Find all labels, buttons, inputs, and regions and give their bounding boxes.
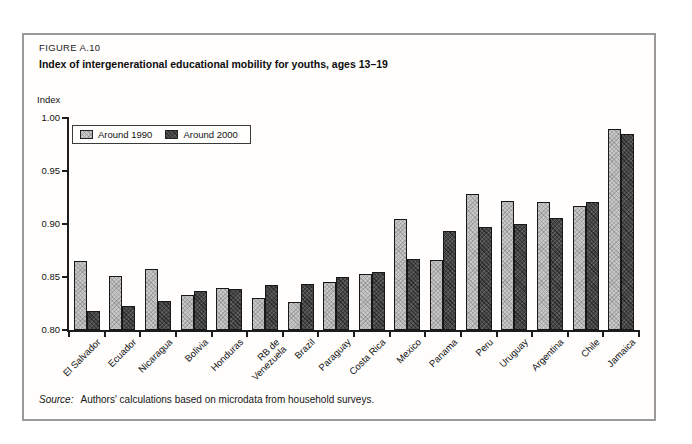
x-tick	[567, 332, 569, 337]
bar-brazil-around-1990	[288, 302, 301, 330]
x-label-mexico: Mexico	[395, 337, 423, 365]
bar-brazil-around-2000	[301, 284, 314, 330]
x-tick	[246, 332, 248, 337]
x-label-nicaragua: Nicaragua	[136, 337, 173, 374]
x-label-brazil: Brazil	[293, 337, 317, 361]
y-tick	[62, 223, 67, 225]
bar-argentina-around-1990	[537, 202, 550, 330]
bar-ecuador-around-2000	[122, 306, 135, 330]
y-tick-label: 0.90	[28, 218, 60, 229]
bar-bolivia-around-1990	[181, 295, 194, 330]
y-tick-label: 1.00	[28, 112, 60, 123]
y-tick	[62, 276, 67, 278]
source-note: Source:Authors' calculations based on mi…	[39, 394, 374, 405]
x-tick	[602, 332, 604, 337]
x-tick	[104, 332, 106, 337]
bar-chile-around-1990	[573, 206, 586, 330]
x-tick	[175, 332, 177, 337]
bar-bolivia-around-2000	[194, 291, 207, 330]
x-tick	[389, 332, 391, 337]
bar-rb-de-venezuela-around-1990	[252, 298, 265, 330]
bar-mexico-around-2000	[407, 259, 420, 330]
bar-nicaragua-around-1990	[145, 269, 158, 330]
y-tick-label: 0.85	[28, 271, 60, 282]
bar-paraguay-around-1990	[323, 282, 336, 330]
bar-costa-rica-around-2000	[372, 272, 385, 330]
bar-jamaica-around-2000	[621, 134, 634, 330]
bar-costa-rica-around-1990	[359, 274, 372, 330]
page: FIGURE A.10 Index of intergenerational e…	[0, 0, 692, 444]
x-label-panama: Panama	[427, 337, 459, 369]
source-text: Authors' calculations based on microdata…	[80, 394, 374, 405]
x-tick	[353, 332, 355, 337]
bar-paraguay-around-2000	[336, 277, 349, 330]
y-tick	[62, 117, 67, 119]
bar-uruguay-around-1990	[501, 201, 514, 330]
x-tick	[68, 332, 70, 337]
bar-jamaica-around-1990	[608, 129, 621, 330]
bar-uruguay-around-2000	[514, 224, 527, 330]
x-label-argentina: Argentina	[530, 337, 565, 372]
bar-el-salvador-around-2000	[87, 311, 100, 330]
bar-nicaragua-around-2000	[158, 301, 171, 330]
x-label-peru: Peru	[473, 337, 494, 358]
bar-peru-around-2000	[479, 227, 492, 330]
x-label-jamaica: Jamaica	[605, 337, 637, 369]
bar-rb-de-venezuela-around-2000	[265, 285, 278, 330]
x-tick	[460, 332, 462, 337]
bar-panama-around-2000	[443, 231, 456, 330]
y-axis-line	[67, 117, 69, 332]
x-label-rb-de-venezuela: RB de Venezuela	[243, 337, 288, 382]
x-label-chile: Chile	[579, 337, 601, 359]
bar-mexico-around-1990	[394, 219, 407, 330]
y-tick	[62, 329, 67, 331]
plot-area: 1.000.950.900.850.80El SalvadorEcuadorNi…	[0, 0, 692, 444]
x-tick	[282, 332, 284, 337]
bar-honduras-around-2000	[229, 289, 242, 330]
source-prefix-label: Source:	[39, 394, 73, 405]
x-tick	[211, 332, 213, 337]
bar-el-salvador-around-1990	[74, 261, 87, 330]
x-label-costa-rica: Costa Rica	[348, 337, 388, 377]
x-label-bolivia: Bolivia	[183, 337, 210, 364]
y-tick	[62, 170, 67, 172]
x-label-paraguay: Paraguay	[316, 337, 351, 372]
bar-chile-around-2000	[586, 202, 599, 330]
x-label-honduras: Honduras	[209, 337, 245, 373]
bar-panama-around-1990	[430, 260, 443, 330]
bar-argentina-around-2000	[550, 218, 563, 330]
y-tick-label: 0.95	[28, 165, 60, 176]
bar-peru-around-1990	[466, 194, 479, 330]
bar-ecuador-around-1990	[109, 276, 122, 330]
y-tick-label: 0.80	[28, 324, 60, 335]
x-tick	[139, 332, 141, 337]
bar-honduras-around-1990	[216, 288, 229, 330]
x-tick	[317, 332, 319, 337]
x-label-uruguay: Uruguay	[498, 337, 530, 369]
x-tick	[638, 332, 640, 337]
x-label-ecuador: Ecuador	[106, 337, 138, 369]
x-tick	[496, 332, 498, 337]
x-label-el-salvador: El Salvador	[61, 337, 102, 378]
x-tick	[531, 332, 533, 337]
x-tick	[424, 332, 426, 337]
